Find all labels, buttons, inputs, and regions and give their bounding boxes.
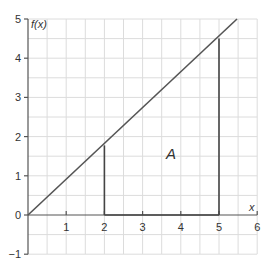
svg-text:6: 6 xyxy=(254,221,260,233)
svg-text:3: 3 xyxy=(140,221,146,233)
svg-text:0: 0 xyxy=(15,209,21,221)
svg-text:−1: −1 xyxy=(8,248,21,260)
grid xyxy=(28,19,257,254)
region-a-label: A xyxy=(165,145,176,162)
svg-text:2: 2 xyxy=(101,221,107,233)
y-axis-label: f(x) xyxy=(31,18,47,30)
x-axis-label: x xyxy=(248,201,255,213)
svg-text:1: 1 xyxy=(63,221,69,233)
svg-text:1: 1 xyxy=(15,170,21,182)
svg-text:5: 5 xyxy=(216,221,222,233)
chart: 5 4 3 2 1 0 −1 1 2 3 4 5 6 f(x) x A xyxy=(0,0,274,269)
svg-text:5: 5 xyxy=(15,13,21,25)
y-tick-labels: 5 4 3 2 1 0 −1 xyxy=(8,13,21,260)
svg-text:4: 4 xyxy=(178,221,184,233)
svg-text:4: 4 xyxy=(15,52,21,64)
svg-text:3: 3 xyxy=(15,91,21,103)
svg-text:2: 2 xyxy=(15,131,21,143)
